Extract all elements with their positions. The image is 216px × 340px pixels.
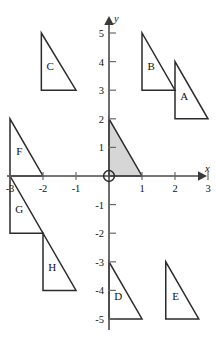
y-tick-label: 5 [99, 28, 104, 39]
triangle-label-h: H [48, 261, 56, 273]
x-tick-label: 1 [139, 183, 144, 194]
triangle-label-b: B [148, 60, 155, 72]
x-tick-label: -3 [6, 183, 15, 194]
y-tick-label: -1 [95, 200, 104, 211]
triangle-label-d: D [114, 290, 122, 302]
x-axis-label: x [204, 163, 210, 174]
y-axis-label: y [113, 13, 119, 24]
y-tick-label: 3 [99, 85, 104, 96]
x-tick-label: -2 [39, 183, 48, 194]
triangle-e [166, 262, 199, 319]
triangle-label-c: C [47, 60, 54, 72]
y-tick-label: -2 [95, 228, 104, 239]
triangle-label-a: A [180, 90, 188, 102]
y-axis-arrow-icon [104, 16, 114, 25]
triangle-f [10, 119, 43, 176]
triangle-label-e: E [172, 290, 179, 302]
y-tick-label: 1 [99, 142, 104, 153]
y-tick-label: -5 [95, 314, 104, 325]
x-tick-label: 2 [172, 183, 177, 194]
x-tick-label: 3 [205, 183, 210, 194]
coordinate-figure: ABCDEFGH -3-2-112354321-1-2-3-4-5 x y [0, 0, 216, 340]
y-tick-label: -4 [95, 285, 104, 296]
y-tick-label: -3 [95, 257, 104, 268]
y-tick-label: 2 [99, 114, 104, 125]
triangle-label-f: F [16, 145, 22, 157]
x-tick-label: -1 [72, 183, 81, 194]
y-tick-label: 4 [99, 57, 105, 68]
triangle-label-g: G [15, 203, 23, 215]
coordinate-plane: ABCDEFGH -3-2-112354321-1-2-3-4-5 x y [0, 0, 216, 340]
